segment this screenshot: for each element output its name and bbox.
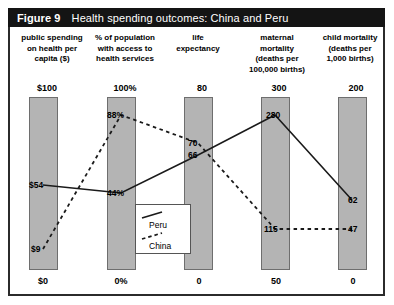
point-label-china-child-mortality: 47 xyxy=(348,224,357,234)
figure-container: Figure 9 Health spending outcomes: China… xyxy=(0,0,394,305)
point-label-peru-public-spending: $54 xyxy=(29,180,43,190)
china-legend-swatch-icon xyxy=(141,232,163,240)
figure-title: Health spending outcomes: China and Peru xyxy=(72,12,289,24)
chart-legend: Peru China xyxy=(135,204,191,254)
point-label-peru-access: 44% xyxy=(107,188,124,198)
plot-area: public spending on health per capita ($)… xyxy=(8,27,385,296)
china-series-line xyxy=(43,115,352,249)
china-legend-label: China xyxy=(149,241,171,251)
point-label-china-maternal-mortality: 115 xyxy=(264,224,278,234)
point-label-china-access: 88% xyxy=(107,110,124,120)
point-label-peru-life-expectancy: 66 xyxy=(188,150,197,160)
point-label-china-public-spending: $9 xyxy=(31,244,40,254)
peru-series-line xyxy=(43,115,352,200)
peru-legend-swatch-icon xyxy=(141,211,163,219)
figure-title-bar: Figure 9 Health spending outcomes: China… xyxy=(8,8,385,27)
series-lines xyxy=(8,27,385,296)
peru-legend-label: Peru xyxy=(149,220,167,230)
point-label-china-life-expectancy: 70 xyxy=(188,138,197,148)
point-label-peru-maternal-mortality: 280 xyxy=(266,110,280,120)
point-label-peru-child-mortality: 62 xyxy=(348,195,357,205)
figure-number: Figure 9 xyxy=(17,12,61,24)
